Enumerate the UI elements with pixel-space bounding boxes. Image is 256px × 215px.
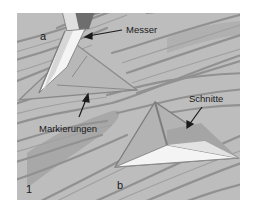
label-knife: Messer: [126, 25, 157, 35]
subfigure-label-a: a: [40, 31, 46, 42]
label-cuts: Schnitte: [189, 94, 223, 104]
figure-number: 1: [26, 184, 32, 195]
label-markings: Markierungen: [39, 124, 97, 134]
wood-illustration-panel: Messer Schnitte Markierungen a b 1: [17, 13, 240, 200]
wood-grain-background: [17, 13, 240, 200]
subfigure-label-b: b: [117, 180, 123, 191]
